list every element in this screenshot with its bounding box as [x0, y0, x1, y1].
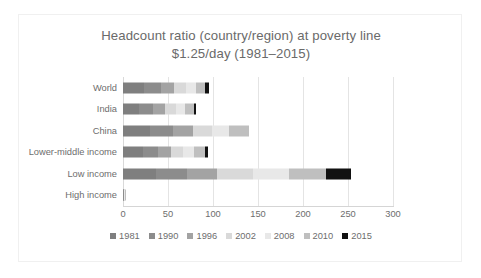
- bar-segment-2008[interactable]: [176, 104, 185, 115]
- legend-swatch-2008: [265, 233, 271, 239]
- bar-segment-1981[interactable]: [123, 168, 156, 179]
- bar-segment-2015[interactable]: [205, 82, 210, 93]
- chart-title-line-2: $1.25/day (1981–2015): [19, 45, 463, 63]
- bar-segment-2010[interactable]: [196, 82, 205, 93]
- bar-segment-1981[interactable]: [123, 104, 139, 115]
- x-tick-label: 0: [120, 209, 125, 219]
- legend-label: 2002: [235, 231, 256, 241]
- legend-swatch-1981: [110, 233, 116, 239]
- chart-title-line-1: Headcount ratio (country/region) at pove…: [19, 27, 463, 45]
- plot-area: WorldIndiaChinaLower-middle incomeLow in…: [123, 77, 393, 206]
- stacked-bar[interactable]: [123, 147, 208, 158]
- bar-segment-1981[interactable]: [123, 82, 144, 93]
- stacked-bar[interactable]: [123, 125, 249, 136]
- legend-swatch-1990: [149, 233, 155, 239]
- x-tick-label: 150: [250, 209, 266, 219]
- chart-container: Headcount ratio (country/region) at pove…: [18, 14, 462, 262]
- bar-segment-1996[interactable]: [173, 125, 193, 136]
- bar-row: China: [123, 120, 393, 142]
- bar-row: Low income: [123, 163, 393, 185]
- bar-segment-2015[interactable]: [194, 104, 196, 115]
- legend-swatch-2002: [226, 233, 232, 239]
- legend-item-2015[interactable]: 2015: [342, 231, 372, 241]
- legend-swatch-1996: [187, 233, 193, 239]
- x-tick-label: 100: [205, 209, 221, 219]
- bar-segment-2010[interactable]: [185, 104, 194, 115]
- chart-title: Headcount ratio (country/region) at pove…: [19, 27, 463, 63]
- legend-item-2010[interactable]: 2010: [304, 231, 334, 241]
- bar-segment-2002[interactable]: [171, 147, 183, 158]
- category-label: Lower-middle income: [29, 147, 117, 157]
- bar-segment-2002[interactable]: [174, 82, 186, 93]
- bar-segment-2008[interactable]: [186, 82, 196, 93]
- category-label: India: [97, 104, 117, 114]
- bar-segment-1996[interactable]: [153, 104, 165, 115]
- x-tick-label: 200: [295, 209, 311, 219]
- bar-segment-1981[interactable]: [123, 125, 150, 136]
- legend-label: 1996: [196, 231, 217, 241]
- bar-segment-2008[interactable]: [183, 147, 194, 158]
- bar-segment-2010[interactable]: [229, 125, 249, 136]
- bar-row: India: [123, 99, 393, 121]
- x-tick-label: 250: [340, 209, 356, 219]
- legend-swatch-2010: [304, 233, 310, 239]
- legend-item-2008[interactable]: 2008: [265, 231, 295, 241]
- chart-legend: 1981199019962002200820102015: [19, 231, 463, 241]
- bar-segment-2002[interactable]: [165, 104, 176, 115]
- bar-segment-1996[interactable]: [187, 168, 218, 179]
- bar-segment-1996[interactable]: [158, 147, 171, 158]
- bar-segment-1996[interactable]: [161, 82, 175, 93]
- bar-row: World: [123, 77, 393, 99]
- gridline-300: [393, 77, 394, 206]
- bar-segment-1990[interactable]: [144, 82, 161, 93]
- stacked-bar[interactable]: [123, 104, 196, 115]
- stacked-bar[interactable]: [123, 82, 209, 93]
- stacked-bar[interactable]: [123, 168, 351, 179]
- bar-segment-1981[interactable]: [123, 147, 143, 158]
- bar-segment-1990[interactable]: [143, 147, 158, 158]
- category-label: Low income: [67, 169, 117, 179]
- bar-segment-2010[interactable]: [194, 147, 205, 158]
- bar-segment-2010[interactable]: [289, 168, 327, 179]
- x-tick-label: 300: [385, 209, 401, 219]
- legend-label: 1981: [119, 231, 140, 241]
- x-axis-line: [123, 206, 394, 207]
- category-label: China: [93, 126, 117, 136]
- bar-segment-2015[interactable]: [326, 168, 350, 179]
- legend-item-1981[interactable]: 1981: [110, 231, 140, 241]
- bar-segment-2008[interactable]: [212, 125, 229, 136]
- legend-item-2002[interactable]: 2002: [226, 231, 256, 241]
- category-label: World: [93, 83, 117, 93]
- legend-item-1996[interactable]: 1996: [187, 231, 217, 241]
- stacked-bar[interactable]: [123, 190, 125, 201]
- bar-segment-2002[interactable]: [193, 125, 212, 136]
- bar-row: Lower-middle income: [123, 142, 393, 164]
- bar-segment-1990[interactable]: [150, 125, 173, 136]
- legend-label: 2010: [313, 231, 334, 241]
- x-tick-label: 50: [163, 209, 173, 219]
- category-label: High income: [65, 190, 117, 200]
- bar-segment-2002[interactable]: [217, 168, 253, 179]
- legend-swatch-2015: [342, 233, 348, 239]
- bar-segment-1990[interactable]: [156, 168, 187, 179]
- legend-item-1990[interactable]: 1990: [149, 231, 179, 241]
- bar-segment-1990[interactable]: [139, 104, 153, 115]
- legend-label: 2008: [274, 231, 295, 241]
- bar-segment-2008[interactable]: [253, 168, 288, 179]
- legend-label: 2015: [351, 231, 372, 241]
- bar-row: High income: [123, 185, 393, 207]
- bar-segment-2015[interactable]: [205, 147, 208, 158]
- legend-label: 1990: [158, 231, 179, 241]
